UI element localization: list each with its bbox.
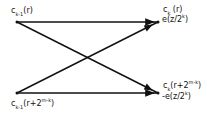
label-arg: (r+2: [23, 99, 41, 108]
label-bottom-right: ck(r+2m-k) -e(z/2k): [163, 81, 201, 101]
label-bottom-left: ck-1(r+2m-k): [11, 99, 54, 108]
label-arg: (r+2: [170, 81, 188, 90]
label-top-right: ck (r) e(z/2k): [163, 5, 188, 24]
node-bottom-right: [157, 92, 160, 95]
label-sup: m-k: [42, 97, 52, 103]
node-top-right: [157, 21, 160, 24]
label-arg-close: ): [198, 81, 201, 90]
weight-close: ): [188, 92, 191, 101]
label-sup: m-k: [189, 79, 199, 85]
label-weight: e(z/2k): [162, 15, 188, 24]
weight-text: e(z/2: [162, 15, 182, 24]
node-top-left: [16, 21, 19, 24]
label-arg: (r): [170, 5, 182, 14]
label-arg-close: ): [51, 99, 54, 108]
label-arg: (r): [23, 6, 33, 15]
node-bottom-left: [16, 92, 19, 95]
weight-text: -e(z/2: [162, 92, 185, 101]
label-value: ck(r+2m-k): [163, 81, 201, 90]
label-top-left: ck-1(r): [11, 6, 33, 15]
weight-close: ): [185, 15, 188, 24]
label-weight: -e(z/2k): [162, 92, 201, 101]
